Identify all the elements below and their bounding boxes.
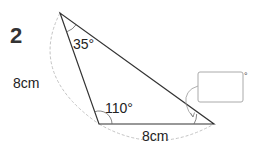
right-angle-arc xyxy=(194,114,197,124)
answer-pointer-curve xyxy=(186,86,198,117)
triangle xyxy=(60,13,214,124)
problem-number: 2 xyxy=(10,23,22,48)
left-side-label: 8cm xyxy=(13,75,39,91)
bottom-left-angle-label: 110° xyxy=(105,100,133,116)
top-angle-arc xyxy=(67,24,77,32)
bottom-side-label: 8cm xyxy=(142,128,168,144)
triangle-problem-diagram: 2 35° 8cm 110° 8cm ° xyxy=(0,0,262,155)
answer-degree-unit: ° xyxy=(244,71,248,81)
answer-box[interactable] xyxy=(198,72,243,102)
left-side-length-arc xyxy=(50,13,99,124)
top-angle-label: 35° xyxy=(73,36,94,52)
